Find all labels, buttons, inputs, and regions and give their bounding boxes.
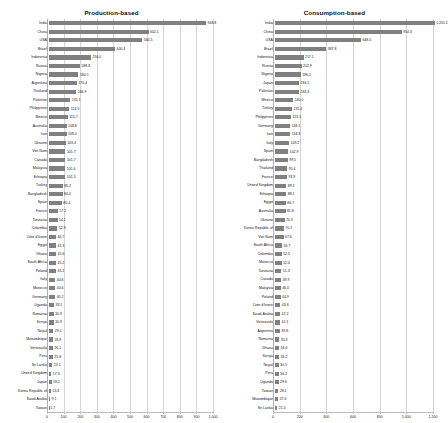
bar-rows-production: India948.8China602.1USA564.5Brazil400.4I…: [0, 19, 223, 412]
bar-value-label: 13.8: [52, 387, 59, 396]
axis-tick-label: 400: [323, 415, 329, 419]
bar-track: 101.4: [49, 164, 223, 173]
bar: [49, 303, 54, 307]
bar-row: Italy109.2: [223, 139, 446, 148]
category-label: Thailand: [223, 164, 275, 173]
bar-track: 30.9: [49, 310, 223, 319]
bar-track: 108.8: [49, 122, 223, 131]
bar-value-label: 93.9: [289, 173, 296, 182]
bar: [275, 380, 279, 384]
bar-track: 67.6: [275, 233, 446, 242]
bar-value-label: 18.2: [53, 378, 60, 387]
bar-track: 57.2: [49, 207, 223, 216]
category-label: Korea Republic of: [0, 387, 49, 396]
bar-value-label: 118.1: [292, 122, 301, 131]
bar-row: Korea Republic of13.8: [0, 387, 223, 396]
bar: [49, 90, 77, 94]
bar-row: Saudi Arabia9.1: [0, 395, 223, 404]
bar-track: 39.8: [275, 327, 446, 336]
bar-row: Brazil387.8: [223, 45, 446, 54]
bar-row: Iran108.0: [0, 130, 223, 139]
category-label: Philippines: [0, 104, 49, 113]
bar: [275, 269, 282, 273]
bar-track: 70.1: [275, 224, 446, 233]
bar-row: Nepal29.1: [0, 327, 223, 336]
bar: [275, 397, 279, 401]
bar-value-label: 84.4: [64, 190, 71, 199]
bar-row: France93.9: [223, 173, 446, 182]
bar-value-label: 202.9: [303, 62, 312, 71]
bar-track: 564.5: [49, 36, 223, 45]
bar-track: 118.8: [275, 130, 446, 139]
bar-value-label: 17.3: [53, 370, 60, 379]
bar-track: 28.1: [275, 387, 446, 396]
bar-value-label: 101.7: [67, 148, 76, 157]
axis-tick-label: 0: [46, 415, 48, 419]
bar-row: Russia188.8: [0, 62, 223, 71]
bar: [49, 218, 58, 222]
bar-track: 52.9: [49, 224, 223, 233]
category-label: Egypt: [0, 241, 49, 250]
bar-value-label: 602.1: [150, 28, 159, 37]
category-label: Romania: [0, 310, 49, 319]
bar: [275, 98, 294, 102]
bar-value-label: 85.2: [64, 182, 71, 191]
bar: [275, 226, 284, 230]
bar-row: Bangladesh84.4: [0, 190, 223, 199]
category-label: Ukraine: [0, 139, 49, 148]
bar: [275, 295, 281, 299]
bar-track: 109.2: [275, 139, 446, 148]
bar: [49, 115, 68, 119]
bar-value-label: 45.2: [57, 259, 64, 268]
category-label: Ethiopia: [0, 173, 49, 182]
category-label: Poland: [223, 293, 275, 302]
bar-track: 44.9: [275, 293, 446, 302]
bar: [49, 252, 57, 256]
bar: [49, 175, 66, 179]
bar-value-label: 217.1: [305, 53, 314, 62]
bar: [275, 149, 289, 153]
bar-row: Poland45.1: [0, 267, 223, 276]
bar-row: China954.3: [223, 28, 446, 37]
bar-value-label: 28.1: [280, 387, 287, 396]
axis-tick-label: 600: [350, 415, 356, 419]
category-label: Philippines: [223, 113, 275, 122]
bar-track: 42.2: [275, 310, 446, 319]
bar-row: Canada49.9: [223, 275, 446, 284]
category-label: Taiwan: [223, 387, 275, 396]
bar-row: Japan184.5: [223, 79, 446, 88]
bar: [275, 201, 286, 205]
bar-track: 29.6: [275, 378, 446, 387]
bar-value-label: 95.4: [289, 165, 296, 174]
axis-tick: [147, 412, 148, 414]
bar-value-label: 648.0: [362, 36, 371, 45]
bar-row: Morocco52.4: [223, 258, 446, 267]
bar-row: Indonesia217.1: [223, 53, 446, 62]
bar-row: Venezuela41.3: [223, 318, 446, 327]
bar-track: 184.5: [275, 79, 446, 88]
bar-track: 52.4: [275, 258, 446, 267]
bar-row: Uganda33.1: [0, 301, 223, 310]
bar-track: 40.6: [49, 275, 223, 284]
bar-track: 40.6: [49, 284, 223, 293]
bar-value-label: 54.1: [59, 216, 66, 225]
bar-row: Viet Nam101.7: [0, 147, 223, 156]
bar-track: 52.3: [275, 250, 446, 259]
bar-track: 256.0: [49, 53, 223, 62]
plot-area-production: India948.8China602.1USA564.5Brazil400.4I…: [0, 19, 223, 423]
bar-row: Peru25.8: [0, 352, 223, 361]
bar-track: 81.8: [275, 207, 446, 216]
bar-value-label: 26.1: [54, 344, 61, 353]
bar: [275, 30, 402, 34]
bar-row: India1,201.1: [223, 19, 446, 28]
category-label: USA: [223, 36, 275, 45]
axis-tick: [47, 412, 48, 414]
bar: [275, 166, 288, 170]
plot-area-consumption: India1,201.1China954.3USA648.0Brazil387.…: [223, 19, 446, 423]
bar-track: 44.7: [49, 233, 223, 242]
category-label: Colombia: [223, 250, 275, 259]
category-label: Mozambique: [223, 395, 275, 404]
bar-value-label: 74.3: [286, 216, 293, 225]
bar-row: Australia108.8: [0, 122, 223, 131]
